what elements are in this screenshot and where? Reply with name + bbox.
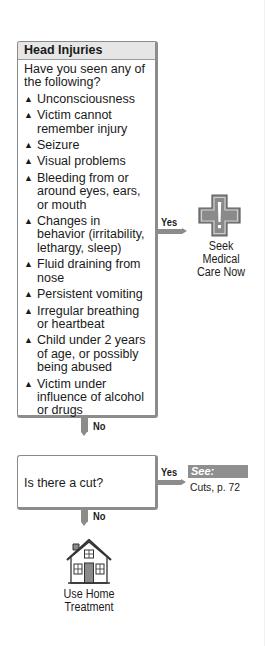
cut-question-box: Is there a cut?	[17, 455, 158, 510]
triangle-bullet-icon: ▲	[24, 334, 33, 347]
cut-question-text: Is there a cut?	[24, 476, 103, 490]
no-arrow	[81, 509, 88, 522]
symptom-item: ▲Fluid draining from nose	[24, 258, 151, 285]
no-label: No	[93, 420, 105, 432]
page-edge-divider	[264, 0, 265, 646]
yes-arrow	[157, 480, 181, 485]
medical-cross-icon	[198, 194, 241, 237]
symptom-item: ▲Visual problems	[24, 155, 151, 168]
symptom-item: ▲Victim cannot remember injury	[24, 109, 151, 136]
symptom-item: ▲Child under 2 years of age, or possibly…	[24, 334, 151, 374]
triangle-bullet-icon: ▲	[24, 139, 33, 152]
triangle-bullet-icon: ▲	[24, 93, 33, 106]
triangle-bullet-icon: ▲	[24, 305, 33, 318]
triangle-bullet-icon: ▲	[24, 155, 33, 168]
symptom-list: ▲Unconsciousness ▲Victim cannot remember…	[24, 93, 151, 418]
symptom-item: ▲Unconsciousness	[24, 93, 151, 106]
no-label: No	[93, 510, 105, 522]
symptom-item: ▲Changes in behavior (irritability, leth…	[24, 215, 151, 255]
symptom-item: ▲Seizure	[24, 139, 151, 152]
head-injuries-box: Head Injuries Have you seen any of the f…	[17, 41, 158, 418]
triangle-bullet-icon: ▲	[24, 172, 33, 185]
see-badge: See:	[188, 465, 248, 478]
triangle-bullet-icon: ▲	[24, 288, 33, 301]
use-home-treatment-label: Use Home Treatment	[58, 588, 121, 614]
yes-label: Yes	[161, 466, 177, 478]
box-title: Head Injuries	[18, 42, 155, 60]
box-body: Have you seen any of the following? ▲Unc…	[18, 60, 155, 418]
symptom-item: ▲Bleeding from or around eyes, ears, or …	[24, 172, 151, 212]
yes-arrow	[157, 229, 182, 234]
symptom-item: ▲Persistent vomiting	[24, 288, 151, 301]
triangle-bullet-icon: ▲	[24, 109, 33, 122]
symptom-item: ▲Victim under influence of alcohol or dr…	[24, 378, 151, 418]
triangle-bullet-icon: ▲	[24, 378, 33, 391]
seek-medical-care-label: Seek Medical Care Now	[190, 240, 253, 279]
triangle-bullet-icon: ▲	[24, 215, 33, 228]
see-reference-link[interactable]: Cuts, p. 72	[190, 481, 240, 493]
no-arrow	[81, 417, 88, 432]
triangle-bullet-icon: ▲	[24, 258, 33, 271]
symptom-item: ▲Irregular breathing or heartbeat	[24, 305, 151, 332]
question-text: Have you seen any of the following?	[24, 63, 151, 90]
yes-label: Yes	[161, 216, 177, 228]
house-icon	[64, 536, 114, 586]
